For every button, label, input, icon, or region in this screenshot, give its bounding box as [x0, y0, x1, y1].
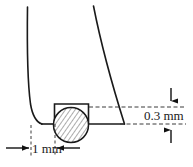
- technical-diagram: 0.3 mm 1 mm: [0, 0, 193, 167]
- vertical-dimension-group: 0.3 mm: [89, 88, 186, 143]
- horizontal-dimension-label: 1 mm: [32, 141, 62, 156]
- vertical-dimension-label: 0.3 mm: [144, 108, 184, 123]
- channel-profile: [27, 6, 124, 124]
- left-channel-wall: [27, 7, 42, 124]
- diagram-canvas: 0.3 mm 1 mm: [0, 0, 193, 167]
- hatched-circular-element: [52, 106, 90, 144]
- right-channel-wall: [94, 6, 125, 124]
- circle-hatching: [52, 106, 90, 144]
